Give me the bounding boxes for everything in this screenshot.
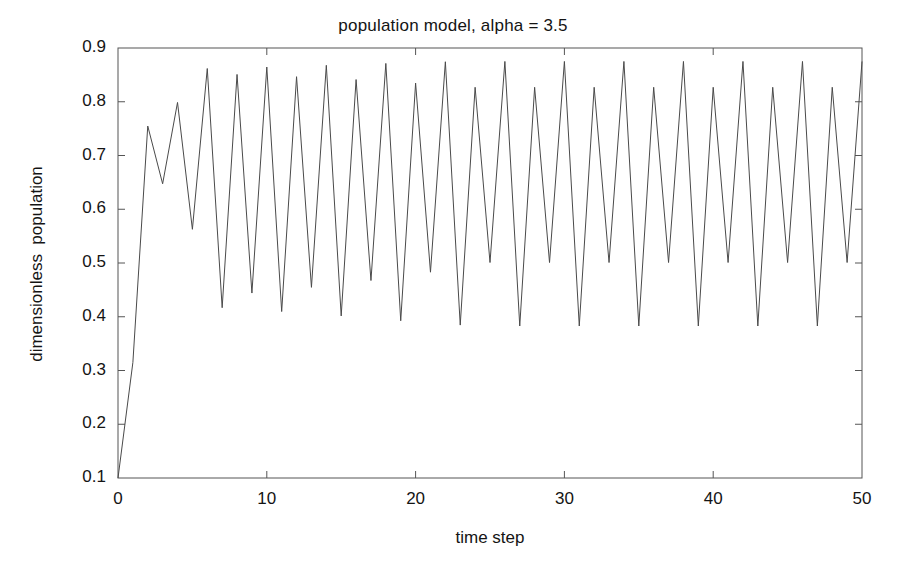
y-tick-label: 0.4 (52, 306, 106, 326)
y-tick-label: 0.9 (52, 37, 106, 57)
y-tick-label: 0.2 (52, 413, 106, 433)
y-tick-label: 0.8 (52, 91, 106, 111)
y-tick-label: 0.7 (52, 145, 106, 165)
chart-figure: population model, alpha = 3.5 dimensionl… (0, 0, 906, 577)
y-tick-label: 0.5 (52, 252, 106, 272)
x-tick-label: 0 (88, 489, 148, 509)
data-series-line (118, 61, 862, 478)
y-tick-label: 0.3 (52, 360, 106, 380)
y-tick-label: 0.1 (52, 467, 106, 487)
x-tick-label: 10 (237, 489, 297, 509)
x-tick-label: 50 (832, 489, 892, 509)
x-tick-label: 40 (683, 489, 743, 509)
y-tick-label: 0.6 (52, 198, 106, 218)
axes-frame (118, 48, 862, 478)
x-tick-label: 20 (386, 489, 446, 509)
tick-marks (118, 48, 862, 478)
x-tick-label: 30 (534, 489, 594, 509)
